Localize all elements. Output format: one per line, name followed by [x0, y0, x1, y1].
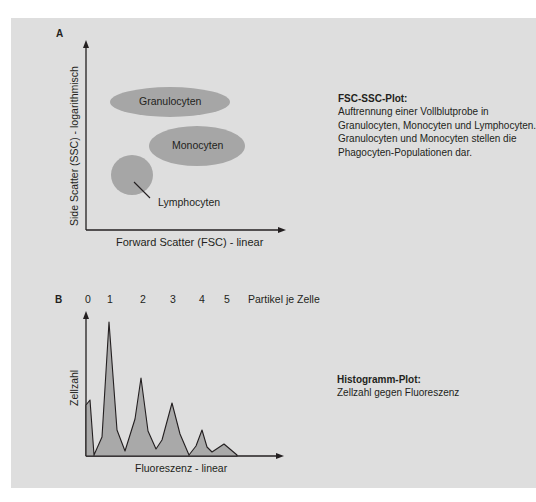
particle-tick-5: 5 [224, 293, 230, 306]
y-axis-arrow-icon [83, 311, 89, 319]
panel-a-label: A [56, 27, 63, 40]
panel-b-x-axis-label: Fluoreszenz - linear [135, 462, 227, 475]
panel-b-description: Histogramm-Plot: Zellzahl gegen Fluoresz… [337, 373, 536, 400]
monocyten-label: Monocyten [172, 139, 223, 152]
panel-b-description-body: Zellzahl gegen Fluoreszenz [337, 386, 536, 399]
panel-a-y-axis-label: Side Scatter (SSC) - logarithmisch [68, 66, 80, 226]
particle-tick-3: 3 [170, 293, 176, 306]
panel-a-description: FSC-SSC-Plot: Auftrennung einer Vollblut… [338, 92, 536, 159]
x-axis-arrow-icon [276, 453, 284, 459]
particle-axis-label: Partikel je Zelle [248, 293, 320, 306]
panel-b-y-axis-label: Zellzahl [68, 370, 80, 406]
panel-a-description-title: FSC-SSC-Plot: [338, 92, 536, 105]
lymphocyten-region [111, 155, 153, 195]
figure-graphics [0, 0, 536, 502]
x-axis-arrow-icon [278, 227, 286, 233]
panel-a-x-axis-label: Forward Scatter (FSC) - linear [116, 236, 263, 249]
y-axis-arrow-icon [83, 40, 89, 48]
lymphocyten-label: Lymphocyten [158, 196, 220, 209]
panel-a-description-body: Auftrennung einer Vollblutprobe in Granu… [338, 105, 536, 159]
panel-b-description-title: Histogramm-Plot: [337, 373, 536, 386]
panel-b-label: B [55, 293, 62, 306]
particle-tick-4: 4 [199, 293, 205, 306]
particle-tick-1: 1 [107, 293, 113, 306]
particle-tick-0: 0 [85, 293, 91, 306]
histogram-area [86, 322, 237, 456]
granulocyten-label: Granulocyten [139, 95, 201, 108]
particle-tick-2: 2 [140, 293, 146, 306]
